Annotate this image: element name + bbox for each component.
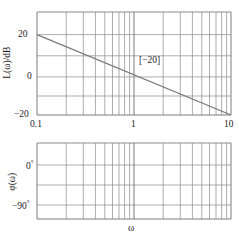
magnitude-ytick-minus-20: −20 [14, 110, 29, 120]
magnitude-y-axis-title: L(ω)/dB [3, 38, 13, 88]
magnitude-plot-grid [37, 12, 231, 115]
slope-annotation: [−20] [139, 56, 160, 66]
phase-ytick-0: 0° [26, 160, 34, 172]
degree-icon: ° [31, 159, 34, 167]
xtick-label-0-1: 0.1 [30, 120, 42, 130]
phase-y-axis-title: φ(ω) [8, 162, 18, 202]
phase-ytick-minus-90-value: −90 [12, 201, 27, 211]
phase-plot-grid [37, 143, 231, 219]
phase-ytick-minus-90: −90° [12, 200, 30, 212]
magnitude-ytick-0: 0 [27, 72, 32, 82]
x-axis-title: ω [128, 224, 134, 234]
xtick-label-10: 10 [224, 120, 234, 130]
bode-plot-figure: L(ω)/dB 20 0 −20 [−20] 0.1 1 10 φ(ω) 0° … [0, 0, 239, 241]
degree-icon: ° [27, 199, 30, 207]
xtick-label-1: 1 [131, 120, 136, 130]
magnitude-ytick-20: 20 [18, 30, 28, 40]
